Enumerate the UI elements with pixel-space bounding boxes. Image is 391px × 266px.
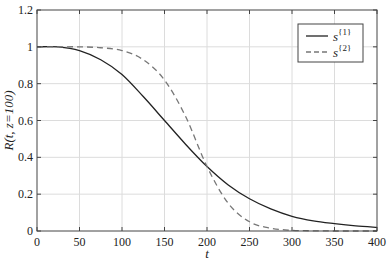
line-chart: 050100150200250300350400 00.20.40.60.811…	[0, 0, 391, 266]
y-axis-label: R(t, z=100)	[1, 90, 16, 151]
x-tick-label: 50	[74, 235, 86, 249]
x-axis-label: t	[205, 246, 209, 261]
x-tick-label: 250	[241, 235, 259, 249]
x-tick-label: 350	[326, 235, 344, 249]
y-tick-labels: 00.20.40.60.811.2	[18, 3, 33, 238]
y-tick-label: 0	[27, 224, 33, 238]
legend-box	[298, 24, 363, 62]
y-tick-label: 1	[27, 40, 33, 54]
y-tick-label: 1.2	[18, 3, 33, 17]
legend: s{1}s{2}	[298, 24, 363, 62]
y-tick-label: 0.4	[18, 150, 33, 164]
x-tick-label: 0	[34, 235, 40, 249]
x-tick-label: 400	[368, 235, 386, 249]
x-tick-label: 150	[156, 235, 174, 249]
x-tick-labels: 050100150200250300350400	[34, 235, 386, 249]
y-tick-label: 0.2	[18, 187, 33, 201]
y-tick-label: 0.8	[18, 77, 33, 91]
y-tick-label: 0.6	[18, 114, 33, 128]
x-tick-label: 100	[113, 235, 131, 249]
x-tick-label: 300	[283, 235, 301, 249]
